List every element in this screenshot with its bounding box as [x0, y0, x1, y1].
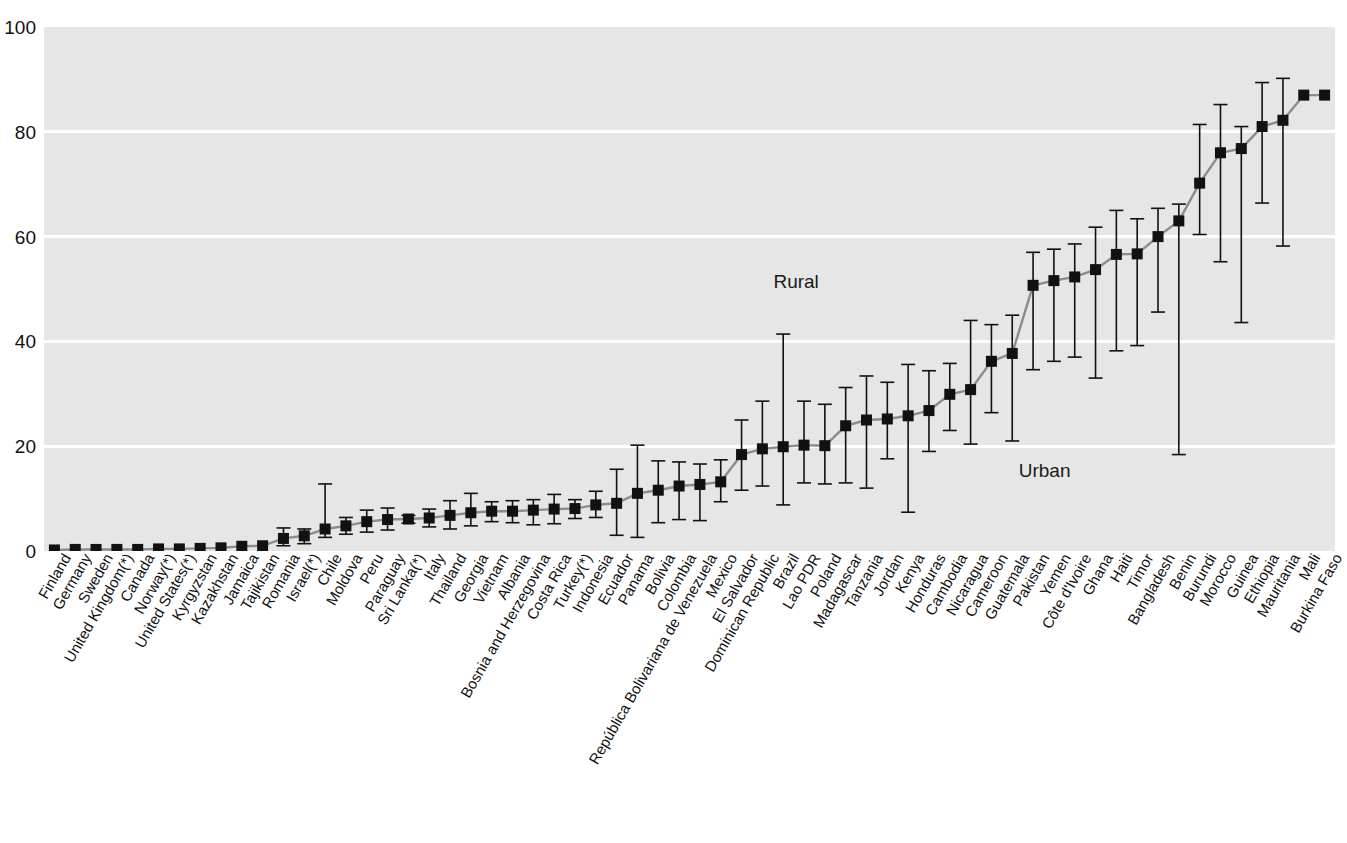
- data-point-marker: [1215, 147, 1226, 158]
- data-point-marker: [1048, 275, 1059, 286]
- data-point-marker: [1298, 90, 1309, 101]
- error-bar: [1151, 208, 1165, 312]
- error-bar: [1026, 252, 1040, 369]
- data-point-marker: [1236, 143, 1247, 154]
- data-point-marker: [840, 420, 851, 431]
- data-point-marker: [1069, 271, 1080, 282]
- data-point-marker: [986, 356, 997, 367]
- data-point-marker: [1111, 249, 1122, 260]
- data-point-marker: [486, 506, 497, 517]
- data-point-marker: [1173, 215, 1184, 226]
- data-point-marker: [257, 540, 268, 551]
- data-point-marker: [1007, 348, 1018, 359]
- y-tick-label: 60: [15, 227, 36, 246]
- error-bar: [776, 334, 790, 505]
- data-point-marker: [1277, 115, 1288, 126]
- figure-root: RuralUrban 020406080100 FinlandGermanySw…: [0, 0, 1347, 843]
- series-plot: [44, 27, 1335, 551]
- error-bar: [1234, 127, 1248, 323]
- annotation-urban: Urban: [1019, 460, 1071, 482]
- data-point-marker: [361, 516, 372, 527]
- data-point-marker: [757, 443, 768, 454]
- data-point-marker: [799, 440, 810, 451]
- error-bar: [1047, 249, 1061, 361]
- clipped-title: [44, 0, 444, 10]
- error-bar: [859, 376, 873, 488]
- data-point-marker: [569, 503, 580, 514]
- data-point-marker: [778, 441, 789, 452]
- data-point-marker: [861, 415, 872, 426]
- error-bar: [693, 464, 707, 521]
- data-point-marker: [320, 523, 331, 534]
- data-point-marker: [903, 410, 914, 421]
- data-point-marker: [944, 389, 955, 400]
- data-point-marker: [1319, 90, 1330, 101]
- data-point-marker: [278, 533, 289, 544]
- data-point-marker: [694, 479, 705, 490]
- data-point-marker: [715, 476, 726, 487]
- data-point-marker: [382, 514, 393, 525]
- data-point-marker: [882, 413, 893, 424]
- data-point-marker: [403, 514, 414, 525]
- data-point-marker: [424, 512, 435, 523]
- data-point-marker: [1028, 280, 1039, 291]
- error-bar: [1255, 83, 1269, 204]
- error-bar: [1109, 210, 1123, 350]
- data-point-marker: [91, 544, 102, 551]
- data-point-marker: [528, 505, 539, 516]
- error-bar: [1130, 219, 1144, 346]
- trend-line: [54, 95, 1324, 550]
- data-point-marker: [965, 384, 976, 395]
- data-point-marker: [507, 506, 518, 517]
- data-point-marker: [923, 405, 934, 416]
- annotation-rural: Rural: [773, 271, 818, 293]
- y-tick-label: 100: [4, 18, 36, 37]
- data-point-marker: [736, 449, 747, 460]
- data-point-marker: [195, 543, 206, 551]
- y-tick-label: 20: [15, 437, 36, 456]
- error-bar: [1172, 204, 1186, 454]
- data-point-marker: [340, 520, 351, 531]
- y-axis: 020406080100: [0, 0, 44, 560]
- data-point-marker: [465, 507, 476, 518]
- data-point-marker: [590, 499, 601, 510]
- data-point-marker: [445, 510, 456, 521]
- data-point-marker: [632, 488, 643, 499]
- error-bar: [901, 364, 915, 512]
- data-point-marker: [611, 498, 622, 509]
- y-tick-label: 80: [15, 122, 36, 141]
- data-point-marker: [215, 542, 226, 551]
- error-bar: [839, 388, 853, 483]
- y-tick-label: 40: [15, 332, 36, 351]
- data-point-marker: [1257, 121, 1268, 132]
- data-point-marker: [1153, 231, 1164, 242]
- data-point-marker: [153, 543, 164, 551]
- x-axis: FinlandGermanySwedenUnited Kingdom(*)Can…: [0, 551, 1347, 843]
- error-bar: [1213, 105, 1227, 262]
- plot-area: RuralUrban: [44, 27, 1335, 551]
- data-point-marker: [819, 440, 830, 451]
- data-point-marker: [549, 504, 560, 515]
- error-bar: [1068, 244, 1082, 357]
- data-point-marker: [1194, 178, 1205, 189]
- error-bar: [1276, 78, 1290, 246]
- error-bar: [1089, 227, 1103, 378]
- data-point-marker: [653, 485, 664, 496]
- data-point-marker: [1090, 264, 1101, 275]
- data-point-marker: [299, 530, 310, 541]
- data-point-marker: [236, 541, 247, 551]
- data-point-marker: [674, 481, 685, 492]
- data-point-marker: [1132, 248, 1143, 259]
